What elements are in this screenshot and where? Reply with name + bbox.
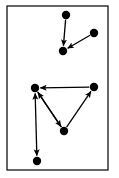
graph-edge: [35, 93, 37, 155]
graph-edge: [67, 91, 91, 127]
graph-node: [60, 127, 68, 135]
edge-layer: [35, 20, 91, 156]
figure-canvas: [0, 0, 119, 178]
graph-edge: [63, 20, 65, 46]
graph-node: [62, 11, 70, 19]
graph-edge: [38, 92, 61, 127]
directed-graph-diagram: [0, 0, 119, 178]
graph-edge: [40, 87, 89, 88]
graph-node: [59, 47, 67, 55]
graph-node: [33, 157, 41, 165]
graph-edge: [68, 35, 90, 48]
graph-node: [31, 84, 39, 92]
graph-node: [90, 29, 98, 37]
graph-node: [90, 83, 98, 91]
